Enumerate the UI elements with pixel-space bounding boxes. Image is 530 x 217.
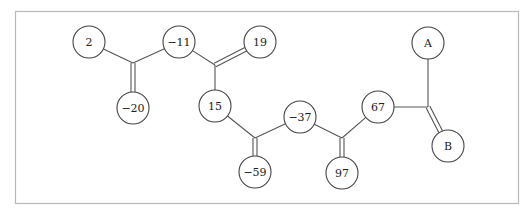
node-minus-20: −20	[117, 92, 149, 124]
svg-text:15: 15	[208, 100, 222, 113]
svg-text:97: 97	[335, 167, 349, 180]
node-minus-59: −59	[239, 156, 271, 188]
node-a: A	[412, 27, 444, 59]
node-2: 2	[73, 26, 105, 58]
node-b: B	[432, 130, 464, 162]
edge	[314, 124, 342, 138]
edge	[133, 49, 164, 63]
svg-text:−20: −20	[121, 102, 144, 115]
edge	[103, 49, 133, 63]
svg-text:19: 19	[253, 36, 267, 49]
node-67: 67	[362, 91, 394, 123]
diagram-canvas: 2 −11 19 −20 15 −37 −59 97 67 A B	[0, 0, 530, 217]
svg-text:67: 67	[371, 101, 385, 114]
node-19: 19	[244, 26, 276, 58]
double-bond-edge	[214, 48, 245, 64]
node-minus-11: −11	[163, 26, 195, 58]
node-minus-37: −37	[284, 101, 316, 133]
svg-text:2: 2	[86, 36, 93, 49]
edge	[255, 124, 286, 138]
svg-text:−37: −37	[288, 111, 311, 124]
double-bond-edge	[216, 51, 247, 67]
svg-text:A: A	[423, 37, 433, 50]
edge	[192, 51, 215, 65]
svg-text:−59: −59	[243, 166, 266, 179]
node-97: 97	[326, 157, 358, 189]
edge	[342, 117, 366, 138]
svg-text:B: B	[444, 140, 452, 153]
node-15: 15	[199, 90, 231, 122]
svg-text:−11: −11	[167, 36, 190, 49]
edge	[227, 116, 255, 138]
